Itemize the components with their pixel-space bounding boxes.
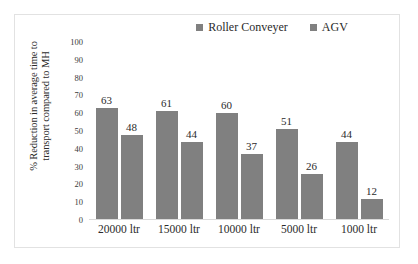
bar-value-label: 26 — [306, 160, 317, 172]
bar-group: 6348 — [89, 42, 149, 220]
bar-roller-conveyer[interactable] — [216, 113, 238, 220]
bar-roller-conveyer[interactable] — [96, 108, 118, 220]
bar-value-label: 48 — [126, 121, 137, 133]
bar-column: 48 — [121, 42, 143, 220]
bar-value-label: 44 — [341, 128, 352, 140]
bar-column: 63 — [96, 42, 118, 220]
bar-column: 61 — [156, 42, 178, 220]
bar-column: 44 — [336, 42, 358, 220]
y-axis-title: % Reduction in average time to transport… — [23, 13, 57, 199]
x-axis-label: 15000 ltr — [149, 223, 209, 235]
bar-agv[interactable] — [121, 135, 143, 220]
legend-swatch-agv — [310, 24, 317, 31]
x-axis-label: 10000 ltr — [209, 223, 269, 235]
chart-figure: Roller Conveyer AGV % Reduction in avera… — [14, 14, 400, 248]
bar-agv[interactable] — [361, 199, 383, 220]
bar-column: 37 — [241, 42, 263, 220]
bar-value-label: 63 — [101, 94, 112, 106]
y-axis-tick: 20 — [75, 179, 84, 189]
x-axis-line — [89, 219, 389, 220]
legend-item-roller-conveyer[interactable]: Roller Conveyer — [196, 21, 288, 33]
bar-value-label: 61 — [161, 97, 172, 109]
x-axis-label: 5000 ltr — [269, 223, 329, 235]
y-axis-tick: 30 — [75, 162, 84, 172]
bar-value-label: 37 — [246, 140, 257, 152]
bar-group: 6144 — [149, 42, 209, 220]
y-axis-tick: 0 — [79, 215, 83, 225]
bar-value-label: 44 — [186, 128, 197, 140]
bar-roller-conveyer[interactable] — [276, 129, 298, 220]
y-axis-tick: 50 — [75, 126, 84, 136]
bar-column: 12 — [361, 42, 383, 220]
x-axis-labels: 20000 ltr15000 ltr10000 ltr5000 ltr1000 … — [89, 223, 389, 235]
y-axis-tick: 40 — [75, 144, 84, 154]
bar-group: 5126 — [269, 42, 329, 220]
x-axis-label: 1000 ltr — [329, 223, 389, 235]
plot-area: 1009080706050403020100 63486144603751264… — [89, 42, 389, 220]
bar-group: 6037 — [209, 42, 269, 220]
y-axis-title-line-2: transport compared to MH — [40, 51, 52, 160]
x-axis-label: 20000 ltr — [89, 223, 149, 235]
bar-value-label: 60 — [221, 99, 232, 111]
y-axis-tick: 90 — [75, 55, 84, 65]
bar-group: 4412 — [329, 42, 389, 220]
bar-roller-conveyer[interactable] — [336, 142, 358, 220]
bar-value-label: 12 — [366, 185, 377, 197]
y-axis-tick: 10 — [75, 197, 84, 207]
legend-label-agv: AGV — [322, 21, 348, 33]
bar-column: 26 — [301, 42, 323, 220]
legend-item-agv[interactable]: AGV — [310, 21, 348, 33]
bar-groups: 63486144603751264412 — [89, 42, 389, 220]
y-axis-tick: 100 — [70, 37, 83, 47]
y-axis-tick: 70 — [75, 90, 84, 100]
bar-agv[interactable] — [181, 142, 203, 220]
chart-legend: Roller Conveyer AGV — [15, 21, 399, 33]
legend-swatch-roller-conveyer — [196, 24, 203, 31]
bar-column: 44 — [181, 42, 203, 220]
bar-roller-conveyer[interactable] — [156, 111, 178, 220]
y-axis-tick: 80 — [75, 73, 84, 83]
legend-label-roller-conveyer: Roller Conveyer — [208, 21, 288, 33]
y-axis-tick: 60 — [75, 108, 84, 118]
bar-agv[interactable] — [301, 174, 323, 220]
bar-column: 51 — [276, 42, 298, 220]
bar-agv[interactable] — [241, 154, 263, 220]
bar-column: 60 — [216, 42, 238, 220]
y-axis-title-line-1: % Reduction in average time to — [28, 41, 40, 171]
bar-value-label: 51 — [281, 115, 292, 127]
